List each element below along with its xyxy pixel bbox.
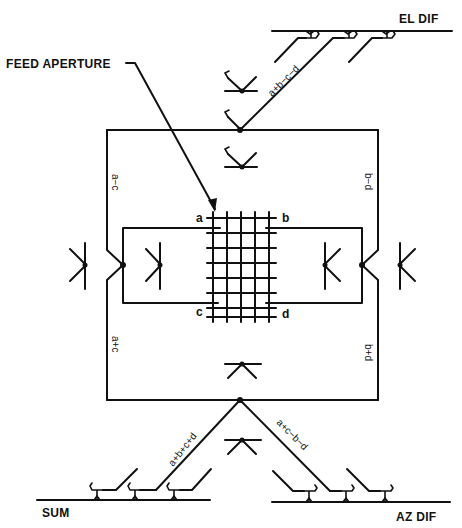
left-inner-element-icon (146, 243, 163, 289)
sum-feed (37, 400, 240, 500)
port-d-label: d (282, 307, 289, 321)
el-dif-feed (240, 31, 452, 130)
sum-label: SUM (42, 506, 70, 520)
right-upper-signal-label: b−d (363, 173, 374, 190)
top-upper-element-icon (225, 71, 257, 94)
port-a-label: a (196, 211, 203, 225)
left-outer-element-icon (70, 243, 88, 289)
az-dif-feed (240, 400, 450, 502)
el-dif-signal-label: a+b−c−d (266, 63, 302, 99)
outer-feed-lines (107, 130, 378, 400)
bottom-lower-element-icon (225, 438, 261, 455)
az-dif-signal-label: a+c−b−d (275, 417, 311, 453)
feed-aperture-label: FEED APERTURE (6, 57, 111, 71)
feed-aperture-pointer-arrow-icon (126, 63, 217, 212)
left-upper-signal-label: a−c (110, 174, 121, 190)
feed-network-diagram: a b c d (0, 0, 462, 528)
el-dif-label: EL DIF (399, 12, 439, 26)
right-outer-element-icon (398, 243, 416, 289)
top-lower-element-icon (225, 147, 257, 170)
right-lower-signal-label: b+d (363, 344, 374, 361)
az-dif-label: AZ DIF (396, 510, 436, 524)
left-lower-signal-label: a+c (110, 336, 121, 352)
right-hybrid-junction (359, 262, 365, 268)
bottom-upper-element-icon (225, 362, 261, 379)
top-center-element-icon (225, 110, 240, 129)
right-inner-element-icon (323, 243, 341, 289)
port-b-label: b (282, 211, 289, 225)
left-hybrid-junction (120, 262, 126, 268)
port-c-label: c (196, 305, 203, 319)
